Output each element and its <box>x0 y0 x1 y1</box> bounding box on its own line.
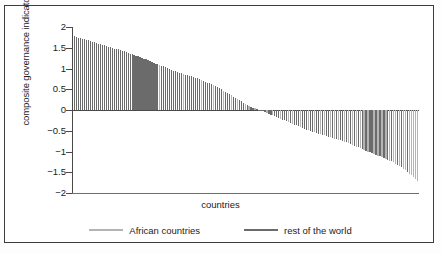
legend-swatch-rest-of-the-world <box>244 229 278 231</box>
bar <box>417 110 418 181</box>
y-tick-label: 2 <box>40 22 66 32</box>
y-tick-mark <box>66 89 72 90</box>
y-tick-mark <box>66 27 72 28</box>
y-tick-mark <box>66 193 72 194</box>
legend-item-african-countries: African countries <box>89 225 200 236</box>
legend-label-rest-of-the-world: rest of the world <box>284 225 352 236</box>
y-tick-mark <box>66 131 72 132</box>
y-tick-label: −2 <box>40 188 66 198</box>
y-axis-tick-labels: 21.510.50−0.5−1−1.5−2 <box>38 0 66 254</box>
y-tick-mark <box>66 48 72 49</box>
y-tick-mark <box>66 69 72 70</box>
y-tick-label: −1.5 <box>40 167 66 177</box>
y-tick-mark <box>66 152 72 153</box>
y-tick-label: 1.5 <box>40 43 66 53</box>
legend-item-rest-of-the-world: rest of the world <box>244 225 352 236</box>
y-tick-mark <box>66 172 72 173</box>
y-tick-label: −0.5 <box>40 126 66 136</box>
y-tick-label: 1 <box>40 64 66 74</box>
y-axis-title: composite governance indicator <box>20 0 36 145</box>
chart-legend: African countries rest of the world <box>0 222 441 238</box>
y-tick-label: 0 <box>40 105 66 115</box>
y-tick-mark <box>66 110 72 111</box>
y-tick-label: −1 <box>40 147 66 157</box>
legend-label-african-countries: African countries <box>129 225 200 236</box>
bar-plot-area <box>74 27 419 193</box>
figure-container: composite governance indicator 21.510.50… <box>0 0 441 254</box>
x-axis-bottom-line <box>71 193 419 194</box>
legend-swatch-african-countries <box>89 229 123 231</box>
x-axis-title: countries <box>0 199 441 210</box>
y-tick-label: 0.5 <box>40 84 66 94</box>
